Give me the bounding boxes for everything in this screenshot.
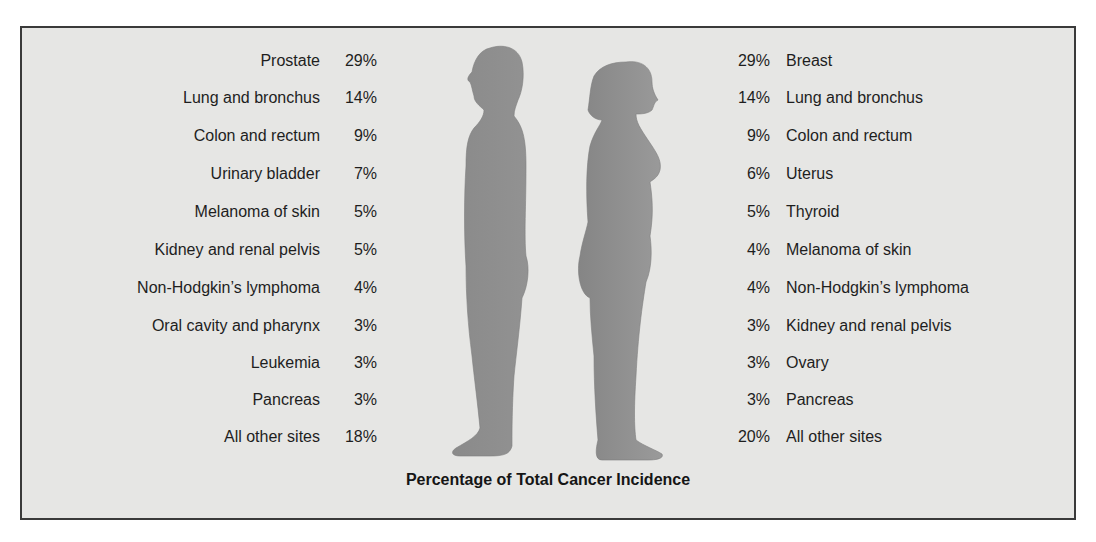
female-site-label: Kidney and renal pelvis [786, 314, 951, 338]
male-row: Oral cavity and pharynx 3% [22, 314, 377, 338]
male-site-pct: 5% [354, 200, 377, 224]
female-site-label: All other sites [786, 425, 882, 449]
male-row: All other sites 18% [22, 425, 377, 449]
male-row: Colon and rectum 9% [22, 124, 377, 148]
male-site-label: Oral cavity and pharynx [152, 314, 320, 338]
male-site-label: All other sites [224, 425, 320, 449]
female-site-label: Colon and rectum [786, 124, 912, 148]
female-site-label: Thyroid [786, 200, 839, 224]
female-site-pct: 9% [747, 124, 770, 148]
female-site-pct: 14% [738, 86, 770, 110]
male-row: Melanoma of skin 5% [22, 200, 377, 224]
male-site-label: Leukemia [251, 351, 320, 375]
female-site-label: Ovary [786, 351, 829, 375]
female-silhouette-icon [578, 62, 662, 460]
female-site-label: Breast [786, 49, 832, 73]
female-row: 4% Non-Hodgkin’s lymphoma [722, 276, 1062, 300]
male-site-label: Melanoma of skin [195, 200, 320, 224]
male-site-pct: 29% [345, 49, 377, 73]
male-site-pct: 3% [354, 388, 377, 412]
female-site-pct: 3% [747, 314, 770, 338]
female-site-label: Uterus [786, 162, 833, 186]
male-row: Kidney and renal pelvis 5% [22, 238, 377, 262]
female-row: 3% Kidney and renal pelvis [722, 314, 1062, 338]
figure-caption: Percentage of Total Cancer Incidence [22, 471, 1074, 489]
male-site-label: Kidney and renal pelvis [155, 238, 320, 262]
male-row: Pancreas 3% [22, 388, 377, 412]
male-site-pct: 14% [345, 86, 377, 110]
female-site-pct: 20% [738, 425, 770, 449]
male-row: Non-Hodgkin’s lymphoma 4% [22, 276, 377, 300]
male-site-label: Urinary bladder [211, 162, 320, 186]
female-row: 14% Lung and bronchus [722, 86, 1062, 110]
female-row: 5% Thyroid [722, 200, 1062, 224]
female-site-pct: 5% [747, 200, 770, 224]
female-site-pct: 3% [747, 388, 770, 412]
male-row: Urinary bladder 7% [22, 162, 377, 186]
male-silhouette-icon [453, 46, 529, 456]
female-site-label: Lung and bronchus [786, 86, 923, 110]
male-site-label: Non-Hodgkin’s lymphoma [137, 276, 320, 300]
female-site-label: Pancreas [786, 388, 854, 412]
female-site-pct: 4% [747, 238, 770, 262]
female-site-pct: 4% [747, 276, 770, 300]
male-site-label: Colon and rectum [194, 124, 320, 148]
male-site-pct: 4% [354, 276, 377, 300]
female-row: 3% Pancreas [722, 388, 1062, 412]
female-row: 20% All other sites [722, 425, 1062, 449]
male-site-pct: 5% [354, 238, 377, 262]
female-site-pct: 3% [747, 351, 770, 375]
male-site-pct: 9% [354, 124, 377, 148]
female-row: 4% Melanoma of skin [722, 238, 1062, 262]
male-row: Prostate 29% [22, 49, 377, 73]
male-site-pct: 7% [354, 162, 377, 186]
female-site-pct: 6% [747, 162, 770, 186]
female-site-label: Non-Hodgkin’s lymphoma [786, 276, 969, 300]
female-site-pct: 29% [738, 49, 770, 73]
cancer-incidence-figure: Prostate 29% Lung and bronchus 14% Colon… [20, 26, 1076, 520]
male-site-pct: 3% [354, 351, 377, 375]
female-row: 3% Ovary [722, 351, 1062, 375]
male-row: Leukemia 3% [22, 351, 377, 375]
male-site-label: Lung and bronchus [183, 86, 320, 110]
male-site-pct: 3% [354, 314, 377, 338]
female-site-label: Melanoma of skin [786, 238, 911, 262]
silhouettes [430, 36, 700, 466]
male-site-pct: 18% [345, 425, 377, 449]
male-site-label: Prostate [260, 49, 320, 73]
male-row: Lung and bronchus 14% [22, 86, 377, 110]
male-site-label: Pancreas [252, 388, 320, 412]
female-row: 29% Breast [722, 49, 1062, 73]
female-row: 6% Uterus [722, 162, 1062, 186]
female-row: 9% Colon and rectum [722, 124, 1062, 148]
